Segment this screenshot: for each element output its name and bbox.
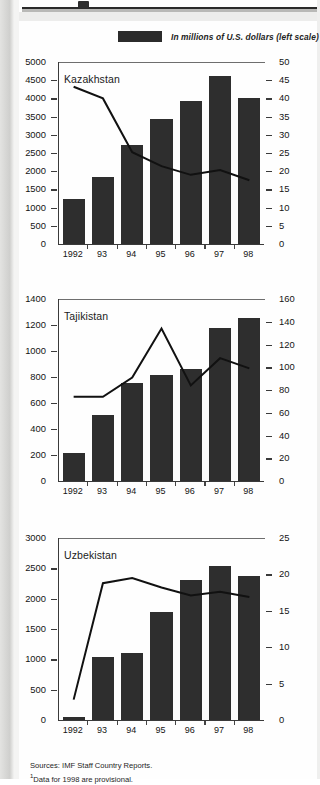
left-axis-tick-mark [51,599,57,600]
line-series-kazakhstan [59,62,264,244]
bar-series-swatch-icon [118,31,162,42]
left-axis-tick-mark [51,80,57,81]
x-axis-tick-mark [204,721,205,725]
left-axis-tick-mark [51,189,57,190]
x-axis-tick-mark [234,245,235,249]
right-axis-tick-label: 25 [279,533,313,542]
left-axis-tick-label: 2500 [0,148,46,157]
chart-tajikistan: 0200400600800100012001400020406080100120… [0,299,320,521]
x-axis-tick-mark [204,482,205,486]
right-axis-tick-label: 30 [279,130,313,139]
right-axis-tick-label: 40 [279,431,313,440]
right-axis-tick-mark [266,98,272,99]
chart-kazakhstan: 0500100015002000250030003500400045005000… [0,62,320,284]
left-axis-tick-mark [51,351,57,352]
right-axis-tick-mark [266,413,272,414]
right-axis-tick-label: 20 [279,166,313,175]
right-axis-tick-mark [266,226,272,227]
left-axis-tick-mark [51,153,57,154]
x-axis-tick-mark [204,245,205,249]
left-axis-tick-label: 500 [0,221,46,230]
x-axis-tick-mark [175,721,176,725]
right-axis-tick-label: 140 [279,317,313,326]
right-axis-tick-label: 80 [279,385,313,394]
x-axis-tick-mark [234,721,235,725]
left-axis-tick-label: 2000 [0,166,46,175]
right-axis-tick-label: 0 [279,476,313,485]
left-axis-tick-mark [51,325,57,326]
right-axis-tick-mark [266,208,272,209]
left-axis-tick-label: 0 [0,476,46,485]
left-axis-tick-mark [51,377,57,378]
footnote-note-text: Data for 1998 are provisional. [33,774,133,783]
right-axis-tick-label: 120 [279,340,313,349]
right-axis-tick-mark [266,153,272,154]
left-axis-tick-label: 3000 [0,130,46,139]
x-axis-tick-mark [87,482,88,486]
left-axis-tick-mark [51,690,57,691]
right-axis-tick-label: 5 [279,679,313,688]
footnote-note: 1Data for 1998 are provisional. [30,772,310,785]
right-axis-tick-label: 35 [279,112,313,121]
right-axis-tick-label: 50 [279,57,313,66]
line-series-uzbekistan [59,538,264,720]
plot-area-uzbekistan [58,538,264,721]
left-axis-tick-mark [51,171,57,172]
left-axis-tick-label: 1400 [0,294,46,303]
left-axis-tick-mark [51,568,57,569]
left-axis-tick-label: 0 [0,239,46,248]
right-axis-tick-mark [266,189,272,190]
left-axis-tick-label: 1000 [0,346,46,355]
x-axis-label-98: 98 [228,249,268,259]
chart-title-kazakhstan: Kazakhstan [64,73,120,85]
left-axis-tick-label: 4000 [0,93,46,102]
plot-area-kazakhstan [58,62,264,245]
right-axis-tick-mark [266,171,272,172]
x-axis-tick-mark [234,482,235,486]
left-axis-tick-label: 1200 [0,320,46,329]
scan-top-blank-band [19,12,320,21]
left-axis-tick-label: 1000 [0,654,46,663]
left-axis-tick-mark [51,455,57,456]
left-axis-tick-label: 500 [0,685,46,694]
right-axis-tick-label: 0 [279,239,313,248]
right-axis-tick-mark [266,80,272,81]
x-axis-tick-mark [146,245,147,249]
left-axis-tick-mark [51,226,57,227]
right-axis-tick-label: 15 [279,606,313,615]
right-axis-tick-label: 0 [279,715,313,724]
right-axis-tick-mark [266,684,272,685]
left-axis-tick-mark [51,117,57,118]
left-axis-tick-label: 200 [0,450,46,459]
right-axis-tick-label: 100 [279,362,313,371]
right-axis-tick-label: 20 [279,569,313,578]
left-axis-tick-label: 400 [0,424,46,433]
right-axis-tick-mark [266,322,272,323]
x-axis-tick-mark [87,245,88,249]
x-axis-label-98: 98 [228,486,268,496]
legend: In millions of U.S. dollars (left scale) [118,31,319,42]
left-axis-tick-label: 1500 [0,184,46,193]
legend-label: In millions of U.S. dollars (left scale) [171,32,319,42]
right-axis-tick-mark [266,436,272,437]
left-axis-tick-mark [51,208,57,209]
chart-uzbekistan: 0500100015002000250030000510152025199293… [0,538,320,760]
left-axis-tick-label: 800 [0,372,46,381]
left-axis-tick-mark [51,429,57,430]
x-axis-tick-mark [117,245,118,249]
left-axis-tick-label: 3000 [0,533,46,542]
x-axis-tick-mark [117,721,118,725]
x-axis-tick-mark [175,482,176,486]
right-axis-tick-mark [266,117,272,118]
left-axis-tick-mark [51,403,57,404]
right-axis-tick-mark [266,390,272,391]
x-axis-tick-mark [146,721,147,725]
right-axis-tick-label: 60 [279,408,313,417]
x-axis-tick-mark [117,482,118,486]
top-rule-shadow [22,9,320,12]
top-corner-mark [78,1,89,8]
right-axis-tick-mark [266,574,272,575]
right-axis-tick-label: 10 [279,203,313,212]
left-axis-tick-label: 3500 [0,112,46,121]
